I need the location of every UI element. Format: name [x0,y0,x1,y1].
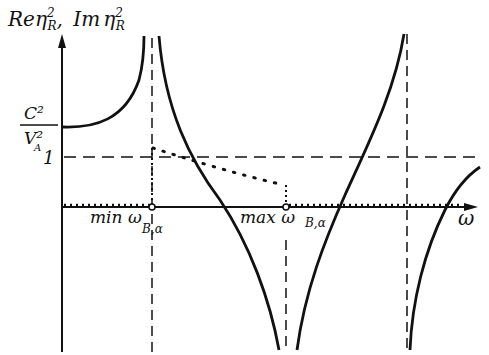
im-dotted-curve [153,148,284,185]
tick-one: 1 [43,147,54,168]
re-curve-branch-3 [297,34,404,350]
x-axis-label: ω [458,206,474,230]
min-bound-marker [149,204,155,210]
tick-c2-num: C² [24,103,44,123]
y-axis-arrow-icon [58,34,66,48]
y-axis-label: Reη2R, Imη2R [7,6,125,33]
min-omega-subscript: B,α [141,222,163,236]
max-omega-label: max ω [240,207,295,227]
min-omega-label: min ω [90,207,142,227]
tick-va-sub: A [33,142,41,153]
max-omega-subscript: B,α [304,216,326,230]
re-curve-branch-2 [159,36,279,350]
dispersion-diagram: Reη2R, Imη2R C² V² A 1 min ω B,α max ω B… [0,0,489,355]
re-curve-branch-1 [63,36,144,127]
re-curve-branch-4 [410,167,480,350]
